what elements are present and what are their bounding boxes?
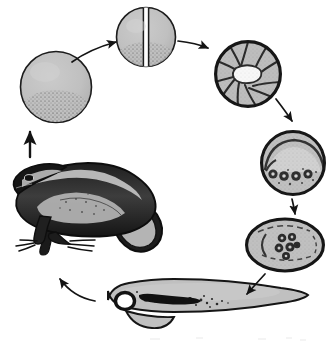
canvas-background <box>0 0 332 342</box>
frog-life-cycle-diagram <box>0 0 332 342</box>
